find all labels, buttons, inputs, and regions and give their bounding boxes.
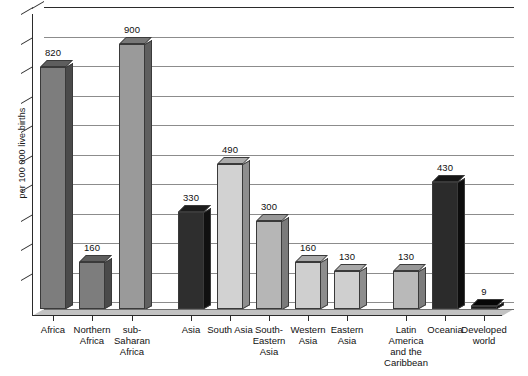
x-axis-category-label: sub-SaharanAfrica	[106, 324, 158, 357]
x-axis-category-label: Developedworld	[458, 324, 510, 346]
bar-side-face	[66, 63, 73, 309]
bar-side-face	[419, 267, 426, 309]
x-axis: AfricaNorthernAfricasub-SaharanAfricaAsi…	[32, 316, 514, 374]
bar-value-label: 130	[339, 251, 355, 262]
bar: 130	[334, 271, 360, 309]
x-axis-tick	[132, 316, 133, 321]
bar: 160	[295, 262, 321, 309]
plot-area: 8201609003304903001601301304309	[32, 8, 514, 316]
x-axis-tick	[308, 316, 309, 321]
bar-side-face	[105, 258, 112, 309]
x-axis-tick	[406, 316, 407, 321]
bar: 330	[178, 212, 204, 309]
bar-front-face	[432, 182, 458, 309]
bar-front-face	[256, 221, 282, 310]
x-axis-tick	[484, 316, 485, 321]
bar: 430	[432, 182, 458, 309]
bar-value-label: 900	[124, 24, 140, 35]
bar-front-face	[334, 271, 360, 309]
x-axis-tick	[445, 316, 446, 321]
x-axis-tick	[191, 316, 192, 321]
bar: 160	[79, 262, 105, 309]
bar-front-face	[393, 271, 419, 309]
bar-side-face	[360, 267, 367, 309]
bar-front-face	[119, 44, 145, 310]
bar-value-label: 130	[398, 251, 414, 262]
bar-side-face	[282, 216, 289, 309]
bar-value-label: 160	[300, 242, 316, 253]
bar-side-face	[321, 258, 328, 309]
bar-value-label: 160	[84, 242, 100, 253]
x-axis-tick	[92, 316, 93, 321]
bar-value-label: 820	[45, 47, 61, 58]
bar-front-face	[295, 262, 321, 309]
bar-side-face	[243, 160, 250, 309]
x-axis-tick	[53, 316, 54, 321]
bar-front-face	[178, 212, 204, 309]
bar-value-label: 9	[481, 286, 486, 297]
x-axis-tick	[230, 316, 231, 321]
x-axis-category-label: EasternAsia	[321, 324, 373, 346]
bar: 820	[40, 67, 66, 309]
bar-value-label: 490	[222, 144, 238, 155]
bar-front-face	[217, 164, 243, 309]
x-axis-tick	[269, 316, 270, 321]
bar-side-face	[458, 178, 465, 309]
bar: 300	[256, 221, 282, 310]
bar: 130	[393, 271, 419, 309]
bar-value-label: 330	[183, 192, 199, 203]
bar: 490	[217, 164, 243, 309]
bar-value-label: 300	[261, 201, 277, 212]
bar-side-face	[145, 39, 152, 309]
bar: 900	[119, 44, 145, 310]
bar-front-face	[79, 262, 105, 309]
bar-front-face	[40, 67, 66, 309]
x-axis-tick	[347, 316, 348, 321]
bar-value-label: 430	[437, 162, 453, 173]
bars-layer: 8201609003304903001601301304309	[32, 8, 514, 316]
plot-floor	[32, 309, 514, 316]
maternal-mortality-bar-chart: per 100 000 live births 8201609003304903…	[0, 0, 528, 376]
floor-top-edge	[44, 309, 514, 310]
bar-side-face	[204, 208, 211, 309]
